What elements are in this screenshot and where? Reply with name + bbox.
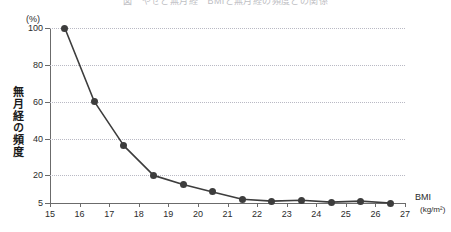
y-tick-label: 100 (28, 23, 43, 33)
y-axis-title: 無月経の頻度 (9, 86, 25, 158)
y-tick-label: 40 (33, 134, 43, 144)
x-tick (287, 203, 288, 207)
x-tick-label: 25 (341, 209, 351, 219)
x-tick-label: 15 (45, 209, 55, 219)
x-tick-label: 19 (163, 209, 173, 219)
chart-figure: 図 やせと無月経 BMIと無月経の頻度との関係 (%) 無月経の頻度 BMI (… (0, 0, 451, 232)
data-point (180, 181, 187, 188)
data-point (61, 25, 68, 32)
x-tick-label: 22 (252, 209, 262, 219)
x-tick (80, 203, 81, 207)
data-point (150, 172, 157, 179)
x-axis-unit-label: (kg/m²) (420, 205, 445, 214)
data-point (357, 198, 364, 205)
x-tick (109, 203, 110, 207)
x-axis-title: BMI (415, 192, 431, 202)
x-tick-label: 24 (311, 209, 321, 219)
data-point (298, 197, 305, 204)
x-tick (316, 203, 317, 207)
data-point (91, 98, 98, 105)
x-tick-label: 27 (400, 209, 410, 219)
chart-title: 図 やせと無月経 BMIと無月経の頻度との関係 (0, 0, 451, 7)
x-tick-label: 18 (134, 209, 144, 219)
x-tick (139, 203, 140, 207)
x-tick (346, 203, 347, 207)
y-tick-label: 5 (38, 198, 43, 208)
data-point (328, 199, 335, 206)
x-tick-label: 16 (75, 209, 85, 219)
x-tick (198, 203, 199, 207)
data-point (387, 200, 394, 207)
x-tick (405, 203, 406, 207)
x-tick (375, 203, 376, 207)
x-tick-label: 23 (282, 209, 292, 219)
data-point (239, 196, 246, 203)
x-tick-label: 21 (222, 209, 232, 219)
series-line (50, 28, 405, 203)
x-tick (257, 203, 258, 207)
x-tick (50, 203, 51, 207)
plot-area: 520406080100 15161718192021222324252627 (50, 28, 405, 203)
x-tick-label: 26 (370, 209, 380, 219)
x-tick (228, 203, 229, 207)
y-tick-label: 80 (33, 60, 43, 70)
x-tick-label: 17 (104, 209, 114, 219)
y-tick-label: 20 (33, 170, 43, 180)
x-tick-label: 20 (193, 209, 203, 219)
x-tick (168, 203, 169, 207)
y-tick-label: 60 (33, 97, 43, 107)
